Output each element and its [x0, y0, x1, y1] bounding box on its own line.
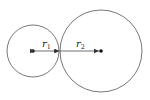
tangent-circles-diagram: r1 r2	[0, 0, 150, 100]
small-circle-center-dot	[31, 49, 35, 53]
label-r2: r2	[76, 38, 85, 51]
large-circle-center-dot	[99, 49, 103, 53]
label-r1: r1	[42, 38, 51, 51]
